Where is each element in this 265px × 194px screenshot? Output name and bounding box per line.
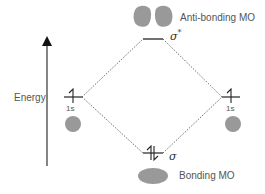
correlation-lines [82,39,222,153]
right-electron-up-icon [227,89,231,103]
star-superscript: * [178,28,182,37]
antibonding-label: Anti-bonding MO [180,12,255,23]
energy-arrow-icon [42,36,52,46]
right-1s-label: 1s [226,104,234,113]
antibonding-symbol: σ* [170,28,182,43]
left-1s-orbital-shape [65,116,81,132]
right-1s-orbital-shape [225,116,241,132]
antibonding-orbital-shape [134,6,173,27]
bonding-orbital-shape [138,168,168,184]
left-electron-up-icon [69,89,73,103]
bonding-label: Bonding MO [179,170,235,181]
energy-axis-label: Energy [14,92,46,103]
bonding-symbol: σ [169,150,177,163]
left-1s-label: 1s [66,104,74,113]
sigma-symbol: σ [170,30,178,43]
